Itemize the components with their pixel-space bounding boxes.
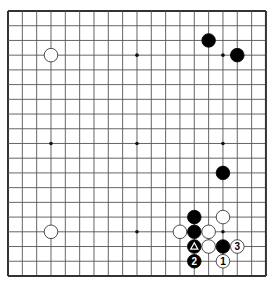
star-point [221,142,225,146]
black-stone [216,240,230,254]
black-stone [216,166,230,180]
black-stone [187,210,201,224]
white-stone: 3 [230,240,244,254]
black-stone [202,34,216,48]
star-point [135,230,139,234]
black-stone [187,240,201,254]
star-point [49,142,53,146]
white-stone [202,225,216,239]
black-stone [187,225,201,239]
black-stone [230,48,244,62]
stones-layer: 321 [44,34,244,268]
move-number: 2 [192,256,198,267]
white-stone: 1 [216,254,230,268]
white-stone [216,210,230,224]
black-stone: 2 [187,254,201,268]
white-stone [173,225,187,239]
go-board: 321 [0,0,276,286]
white-stone [44,48,58,62]
move-number: 1 [220,256,226,267]
move-number: 3 [234,241,240,252]
white-stone [44,225,58,239]
star-point [221,53,225,57]
white-stone [202,240,216,254]
star-point [221,230,225,234]
star-point [135,53,139,57]
star-point [135,142,139,146]
